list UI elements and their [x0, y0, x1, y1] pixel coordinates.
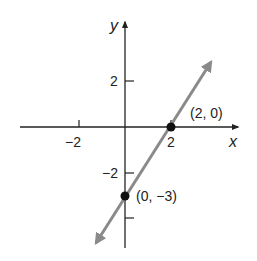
line-series	[96, 62, 211, 243]
coordinate-plot: y x −2 2 2 −2 (2, 0) (0, −3)	[0, 0, 257, 261]
x-tick-label-neg2: −2	[65, 134, 81, 150]
x-axis-label: x	[228, 133, 238, 150]
y-axis-label: y	[109, 17, 119, 34]
point-label-2-0: (2, 0)	[190, 105, 223, 121]
point-label-0-neg3: (0, −3)	[136, 188, 177, 204]
y-tick-label-neg2: −2	[102, 165, 118, 181]
point-2-0	[167, 123, 176, 132]
x-tick-label-2: 2	[167, 134, 175, 150]
point-0-neg3	[121, 192, 130, 201]
y-tick-label-2: 2	[110, 73, 118, 89]
